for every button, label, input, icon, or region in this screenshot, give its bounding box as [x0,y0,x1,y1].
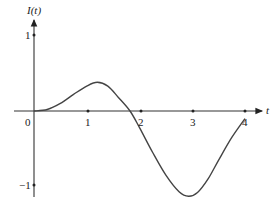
x-tick-label-2: 2 [138,116,144,128]
x-tick-label-1: 1 [85,116,91,128]
chart-canvas: I(t) t 0 1 2 3 4 1 −1 [0,0,278,207]
y-tick-neg1 [33,184,36,187]
x-tick-label-3: 3 [190,116,196,128]
y-axis-label: I(t) [26,4,41,17]
y-tick-label-1: 1 [25,29,31,41]
origin-label: 0 [25,116,31,128]
x-tick-4 [244,110,247,113]
y-tick-label-neg1: −1 [19,179,31,191]
x-tick-label-4: 4 [242,116,248,128]
y-tick-1 [33,34,36,37]
x-tick-2 [140,110,143,113]
x-tick-3 [192,110,195,113]
x-tick-1 [87,110,90,113]
x-axis-label: t [266,104,270,116]
data-line-I [34,82,245,196]
